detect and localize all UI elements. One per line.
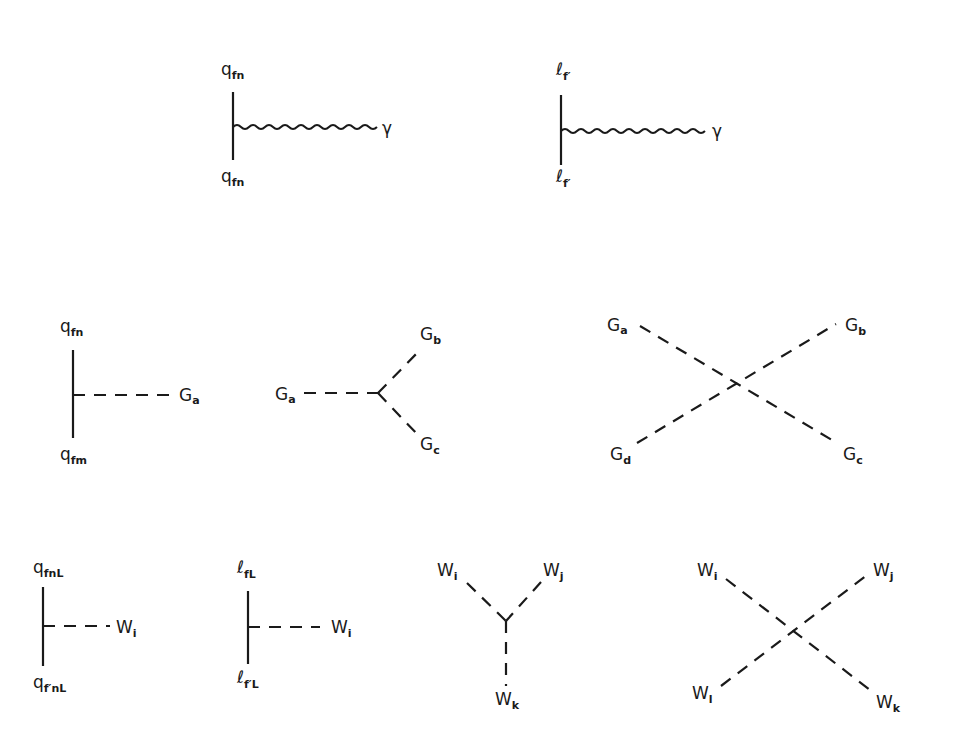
label-upper-right: Gb — [420, 324, 441, 347]
vertex-quark-W: qfnL qf′nL Wi — [33, 557, 137, 695]
label-bottom: qf′nL — [33, 672, 66, 695]
label-bottom: ℓf′ — [555, 166, 571, 190]
gluon-line-b — [378, 348, 422, 393]
label-upper-right: Wj — [873, 560, 894, 583]
label-upper-left: Wi — [697, 560, 718, 583]
W-line-j — [506, 582, 541, 621]
label-lower-right: Gc — [420, 434, 440, 457]
vertex-quark-photon: qfn qfn γ — [221, 59, 392, 189]
vertex-four-W: Wi Wj Wk Wl — [692, 560, 901, 715]
label-bottom: ℓf′L — [236, 667, 259, 691]
label-right: γ — [712, 121, 722, 141]
W-line-i-k — [726, 579, 870, 690]
vertex-three-W: Wi Wj Wk — [437, 560, 564, 712]
W-line-i — [467, 583, 506, 621]
vertex-four-gluon: Ga Gb Gc Gd — [607, 315, 866, 467]
label-left: Ga — [275, 384, 296, 406]
label-lower-left: Gd — [610, 444, 631, 467]
label-lower-right: Gc — [843, 444, 863, 467]
photon-line — [561, 129, 705, 133]
label-right: Wi — [116, 617, 137, 640]
label-upper-left: Ga — [607, 315, 628, 337]
label-right: Ga — [179, 385, 200, 407]
vertex-three-gluon: Ga Gb Gc — [275, 324, 441, 457]
photon-line — [233, 125, 377, 129]
vertex-lepton-photon: ℓf′ ℓf′ γ — [555, 59, 722, 190]
gluon-line-c — [378, 393, 418, 435]
label-lower-left: Wl — [692, 683, 713, 706]
label-top: ℓf′ — [555, 59, 571, 83]
label-bottom: qfn — [221, 166, 244, 189]
label-top: ℓfL — [236, 557, 256, 581]
label-right: γ — [382, 118, 392, 138]
label-top: qfn — [221, 59, 244, 82]
label-bottom: qfm — [60, 444, 87, 467]
label-lower-right: Wk — [876, 692, 901, 715]
label-top: qfnL — [33, 557, 63, 580]
label-upper-right: Gb — [845, 315, 866, 338]
label-upper-right: Wj — [543, 560, 564, 583]
label-upper-left: Wi — [437, 560, 458, 583]
label-right: Wi — [331, 617, 352, 640]
vertex-quark-gluon: qfn qfm Ga — [60, 316, 200, 467]
feynman-diagram-canvas: qfn qfn γ ℓf′ ℓf′ γ qfn qfm Ga Ga Gb Gc … — [0, 0, 954, 747]
label-bottom: Wk — [495, 689, 520, 712]
label-top: qfn — [60, 316, 83, 339]
vertex-lepton-W: ℓfL ℓf′L Wi — [236, 557, 352, 691]
